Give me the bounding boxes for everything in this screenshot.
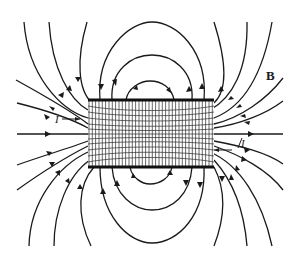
solenoid-field-diagram: I I B (0, 0, 299, 255)
current-label-right: I (240, 137, 246, 149)
field-label-b: B (266, 68, 275, 83)
bottom-loops (100, 167, 204, 243)
left-lower-lines (17, 141, 94, 246)
solenoid (88, 100, 214, 167)
left-upper-lines (16, 22, 92, 128)
right-lower-lines (210, 141, 283, 246)
top-loops (98, 22, 205, 100)
